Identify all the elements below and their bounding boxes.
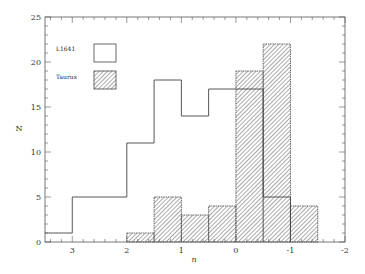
taurus-bar xyxy=(127,233,154,242)
x-tick-label: 0 xyxy=(233,246,238,255)
y-axis-title: N xyxy=(16,124,23,133)
y-tick-label: 0 xyxy=(36,238,41,247)
x-tick-label: -1 xyxy=(287,246,295,255)
x-tick-label: 2 xyxy=(124,246,129,255)
legend-label-l1641: L1641 xyxy=(56,45,75,52)
y-tick-label: 10 xyxy=(31,148,41,157)
y-tick-label: 15 xyxy=(31,103,41,112)
y-tick-label: 5 xyxy=(36,193,41,202)
x-tick-label: -2 xyxy=(341,246,349,255)
y-tick-label: 20 xyxy=(31,58,41,67)
x-axis-title: n xyxy=(191,255,196,264)
histogram-chart: 3210-1-20510152025 n N L1641 Taurus xyxy=(0,0,365,274)
legend-swatch-taurus xyxy=(94,71,116,89)
legend: L1641 Taurus xyxy=(56,44,116,89)
taurus-bar xyxy=(181,215,208,242)
y-tick-label: 25 xyxy=(31,13,41,22)
x-tick-label: 1 xyxy=(179,246,184,255)
taurus-bar xyxy=(236,71,263,242)
taurus-bar xyxy=(290,206,317,242)
legend-swatch-l1641 xyxy=(94,44,116,62)
taurus-bar xyxy=(154,197,181,242)
taurus-bar xyxy=(209,206,236,242)
taurus-bar xyxy=(263,44,290,242)
taurus-series xyxy=(127,44,318,242)
x-tick-label: 3 xyxy=(70,246,75,255)
legend-label-taurus: Taurus xyxy=(56,73,77,80)
